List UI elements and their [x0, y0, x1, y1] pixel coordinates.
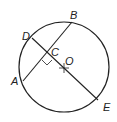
label-D: D	[22, 30, 30, 42]
label-B: B	[70, 9, 77, 21]
diameter-DE	[32, 38, 98, 100]
right-angle-marker	[42, 60, 52, 65]
label-A: A	[10, 75, 18, 87]
label-O: O	[65, 55, 74, 67]
geometry-diagram: B D C O A E	[0, 0, 117, 122]
label-C: C	[51, 46, 59, 58]
chord-AB	[23, 22, 72, 81]
label-E: E	[103, 101, 111, 113]
